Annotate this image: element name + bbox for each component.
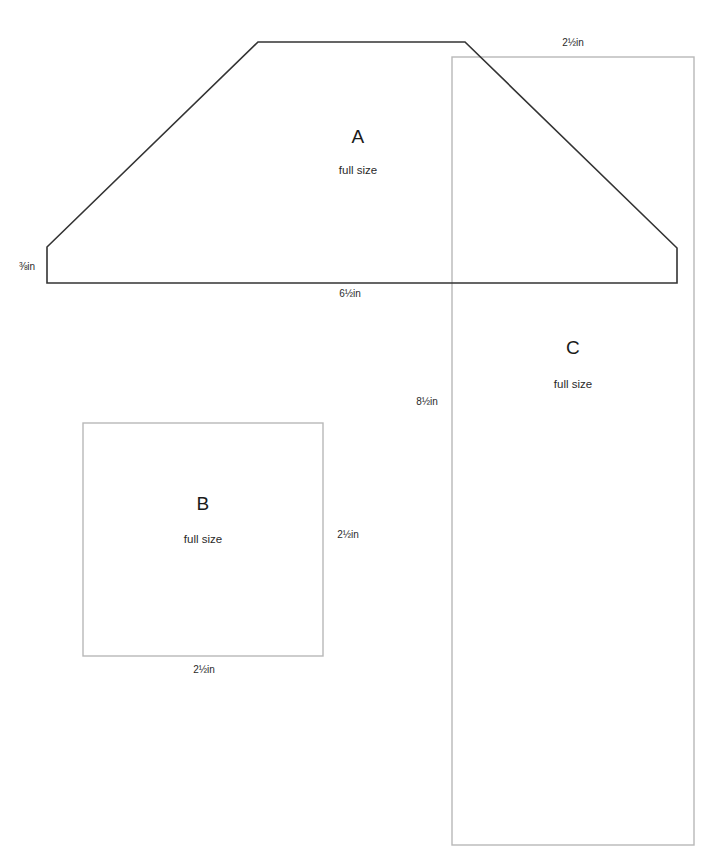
pattern-sheet: A full size B full size C full size ⅜in … xyxy=(0,0,717,859)
sheet-background xyxy=(0,0,717,859)
pattern-drawing-canvas xyxy=(0,0,717,859)
